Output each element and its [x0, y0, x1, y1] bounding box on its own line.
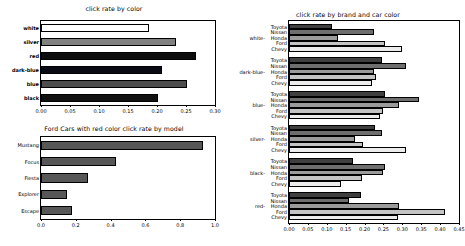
- x-axis-tick-label: 0.25: [378, 226, 389, 232]
- bar: [41, 206, 72, 215]
- y-axis-tick-label: Focus: [25, 159, 39, 165]
- bar: [41, 94, 158, 102]
- y-axis-group-label: silver-: [250, 136, 265, 142]
- bar: [289, 147, 406, 153]
- y-axis-brand-label: Chevy: [271, 80, 287, 86]
- x-axis-tick-label: 1.0: [211, 222, 219, 228]
- y-axis-brand-label: Chevy: [271, 214, 287, 220]
- y-axis-tick-label: Fiesta: [24, 175, 39, 181]
- bar: [289, 215, 398, 221]
- chart-click-rate-by-color: click rate by color whitesilverreddark-b…: [0, 0, 228, 120]
- bar: [289, 80, 372, 86]
- x-axis-tick-label: 0.0: [37, 222, 45, 228]
- plot-area: MustangFocusFiestaExplorerEscape0.00.20.…: [40, 136, 216, 220]
- y-axis-group-label: dark-blue-: [239, 69, 265, 75]
- y-axis-tick-label: dark-blue: [12, 67, 39, 73]
- bar: [289, 46, 402, 52]
- chart-title: Ford Cars with red color click rate by m…: [0, 125, 228, 132]
- x-axis-tick-label: 0.05: [64, 108, 75, 114]
- x-axis-tick-label: 0.20: [359, 226, 370, 232]
- bar: [41, 52, 196, 60]
- y-axis-tick-label: Explorer: [18, 191, 39, 197]
- bar: [41, 141, 203, 150]
- x-axis-tick-label: 0.6: [141, 222, 149, 228]
- y-axis-group-label: black-: [250, 170, 265, 176]
- x-axis-tick-label: 0.00: [35, 108, 46, 114]
- y-axis-group-label: red-: [255, 203, 265, 209]
- y-axis-tick-label: Escape: [21, 208, 39, 214]
- bar: [41, 157, 116, 166]
- y-axis-group-label: white-: [250, 35, 266, 41]
- y-axis-tick-label: black: [24, 95, 39, 101]
- y-axis-tick-label: white: [23, 25, 39, 31]
- bar: [289, 114, 380, 120]
- y-axis-brand-label: Chevy: [271, 147, 287, 153]
- bar: [41, 190, 67, 199]
- x-axis-tick-label: 0.15: [340, 226, 351, 232]
- y-axis-brand-label: Chevy: [271, 113, 287, 119]
- x-axis-tick-label: 0.4: [107, 222, 115, 228]
- x-axis-tick-label: 0.00: [283, 226, 294, 232]
- x-axis-tick-label: 0.30: [209, 108, 220, 114]
- plot-area: ToyotaNissanHondaFordChevywhite-ToyotaNi…: [288, 20, 460, 224]
- y-axis-tick-label: silver: [23, 39, 39, 45]
- bar: [289, 181, 341, 187]
- chart-title: click rate by color: [0, 5, 228, 12]
- x-axis-tick-label: 0.40: [435, 226, 446, 232]
- x-axis-tick-label: 0.15: [122, 108, 133, 114]
- bar: [41, 80, 187, 88]
- chart-click-rate-by-brand-and-color: click rate by brand and car color Toyota…: [232, 0, 464, 246]
- y-axis-tick-label: red: [30, 53, 39, 59]
- y-axis-brand-label: Chevy: [271, 46, 287, 52]
- x-axis-tick-label: 0.10: [321, 226, 332, 232]
- x-axis-tick-label: 0.20: [151, 108, 162, 114]
- bar: [41, 38, 176, 46]
- bar: [41, 173, 88, 182]
- x-axis-tick-label: 0.25: [180, 108, 191, 114]
- x-axis-tick-label: 0.2: [72, 222, 80, 228]
- x-axis-tick-label: 0.10: [93, 108, 104, 114]
- x-axis-tick-label: 0.45: [453, 226, 464, 232]
- y-axis-tick-label: Mustang: [18, 142, 39, 148]
- x-axis-tick-label: 0.05: [302, 226, 313, 232]
- chart-title: click rate by brand and car color: [232, 11, 464, 18]
- x-axis-tick-label: 0.35: [416, 226, 427, 232]
- y-axis-brand-label: Chevy: [271, 181, 287, 187]
- chart-ford-red-by-model: Ford Cars with red color click rate by m…: [0, 120, 228, 246]
- plot-area: whitesilverreddark-blueblueblack0.000.05…: [40, 20, 216, 106]
- x-axis-tick-label: 0.8: [176, 222, 184, 228]
- bar: [41, 66, 162, 74]
- x-axis-tick-label: 0.30: [397, 226, 408, 232]
- bar: [41, 24, 149, 32]
- y-axis-tick-label: blue: [27, 81, 39, 87]
- y-axis-group-label: blue-: [252, 102, 265, 108]
